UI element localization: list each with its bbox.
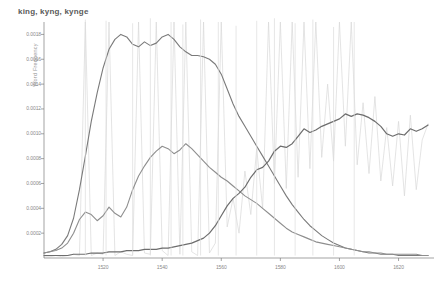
x-tick-label: 1620 [384,264,414,270]
y-tick-label: 0.0014 [5,81,41,87]
x-tick-label: 1580 [265,264,295,270]
y-tick-label: 0.0016 [5,56,41,62]
x-tick-label: 1600 [324,264,354,270]
y-axis-tick-labels: 0.00020.00040.00060.00080.00100.00120.00… [0,22,41,258]
y-tick-label: 0.0018 [5,31,41,37]
word-frequency-chart: king, kyng, kynge Word Frequency 0.00020… [0,0,440,282]
y-tick-label: 0.0012 [5,105,41,111]
x-axis-tick-labels: 152015401560158016001620 [44,260,434,274]
y-tick-label: 0.0010 [5,130,41,136]
series-layer [44,18,428,256]
chart-title: king, kyng, kynge [18,7,89,16]
x-tick-label: 1560 [206,264,236,270]
plot-area [44,22,434,258]
plot-svg [44,22,434,258]
x-tick-label: 1520 [88,264,118,270]
x-tick-label: 1540 [147,264,177,270]
y-tick-label: 0.0004 [5,205,41,211]
y-tick-label: 0.0002 [5,230,41,236]
y-tick-label: 0.0008 [5,155,41,161]
y-tick-label: 0.0006 [5,180,41,186]
